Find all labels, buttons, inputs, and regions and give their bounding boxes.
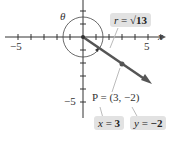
y-neg-tick-label: −5 bbox=[64, 95, 76, 107]
r-label-box: r = √13 bbox=[110, 13, 151, 27]
theta-label: θ bbox=[60, 10, 65, 22]
x-pos-tick-label: 5 bbox=[144, 40, 150, 52]
origin-point bbox=[81, 35, 85, 39]
x-value: 3 bbox=[115, 117, 121, 129]
x-value-box: x = 3 bbox=[94, 116, 124, 130]
y-eq: = bbox=[139, 117, 151, 129]
y-value-box: y = −2 bbox=[130, 116, 166, 130]
point-p bbox=[120, 62, 125, 67]
vector-arrow-icon bbox=[141, 74, 152, 84]
leader-lines bbox=[100, 28, 138, 118]
x-eq: = bbox=[103, 117, 115, 129]
point-p-label: P = (3, −2) bbox=[92, 91, 139, 103]
vector-r bbox=[83, 37, 146, 80]
r-eq: = bbox=[118, 14, 130, 26]
x-neg-tick-label: −5 bbox=[10, 40, 22, 52]
y-value: −2 bbox=[151, 117, 163, 129]
x-axis-label: x bbox=[158, 30, 163, 42]
r-value: √13 bbox=[130, 14, 147, 26]
